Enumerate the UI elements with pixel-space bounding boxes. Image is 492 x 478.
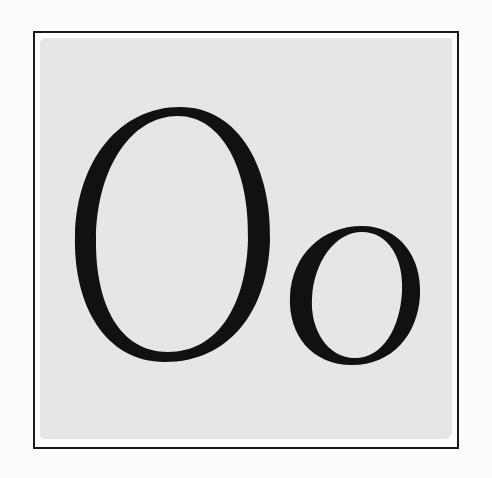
uppercase-o-glyph xyxy=(75,107,270,362)
lowercase-o-glyph xyxy=(290,226,420,365)
letters-artwork xyxy=(0,0,492,478)
